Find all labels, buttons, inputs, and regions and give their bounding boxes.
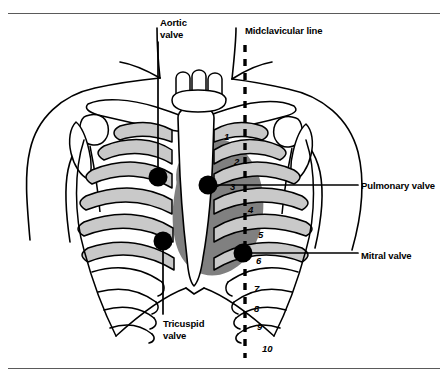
rib-number-10: 10 — [262, 343, 273, 354]
anatomical-figure: 1 2 3 4 5 6 7 8 9 10 Aortic valve Midcla… — [0, 0, 448, 380]
rib-number-9: 9 — [257, 321, 263, 332]
rib-number-8: 8 — [254, 303, 260, 314]
rib-number-5: 5 — [258, 229, 264, 240]
rib-number-4: 4 — [247, 204, 254, 215]
rib-number-2: 2 — [233, 156, 240, 167]
point-mitral-valve[interactable] — [234, 244, 253, 263]
label-aortic-valve: Aortic valve — [160, 17, 187, 40]
label-tricuspid-valve: Tricuspid valve — [163, 318, 204, 341]
rib-number-6: 6 — [256, 255, 262, 266]
point-pulmonary-valve[interactable] — [199, 176, 218, 195]
rib-number-1: 1 — [224, 131, 229, 142]
rib-number-7: 7 — [254, 283, 260, 294]
label-pulmonary-valve: Pulmonary valve — [361, 180, 435, 192]
label-midclavicular-line: Midclavicular line — [245, 25, 322, 37]
label-mitral-valve: Mitral valve — [361, 250, 412, 262]
great-vessels — [172, 70, 226, 112]
point-tricuspid-valve[interactable] — [154, 232, 173, 251]
rib-number-3: 3 — [230, 181, 236, 192]
point-aortic-valve[interactable] — [149, 168, 168, 187]
